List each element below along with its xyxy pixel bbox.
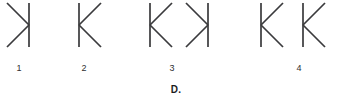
glyph-mirrored-k <box>183 2 213 48</box>
number-label-3: 3 <box>160 58 184 78</box>
figure-panel: 1 2 3 4 D. <box>0 0 352 104</box>
number-label-2: 2 <box>72 58 96 78</box>
glyph-mirrored-k <box>4 2 34 48</box>
figure-caption: D. <box>0 84 352 95</box>
glyph-k <box>145 2 175 48</box>
number-labels-row: 1 2 3 4 <box>0 58 352 78</box>
glyph-k <box>298 2 328 48</box>
glyph-row <box>0 0 352 56</box>
glyph-k <box>256 2 286 48</box>
glyph-k <box>74 2 104 48</box>
number-label-1: 1 <box>7 58 31 78</box>
number-label-4: 4 <box>287 58 311 78</box>
